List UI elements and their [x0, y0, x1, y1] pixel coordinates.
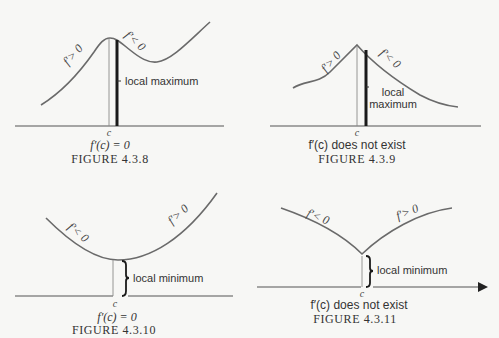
figure-4-3-8: local maximum f′> 0 f′< 0 c f′(c) = 0 FI…	[15, 22, 224, 166]
figure-4-3-11: local minimum f′< 0 f′> 0 c f′(c) does n…	[257, 201, 488, 326]
extremum-label: local minimum	[133, 272, 203, 284]
local-min-brace	[122, 261, 129, 296]
right-slope-label: f′> 0	[394, 201, 421, 223]
left-slope-label: f′< 0	[65, 220, 92, 246]
extremum-label-line1: local	[382, 86, 405, 98]
condition-label: f′(c) does not exist	[309, 138, 407, 152]
extremum-label-line2: maximum	[369, 98, 417, 110]
left-slope-label: f′> 0	[60, 42, 86, 69]
extremum-label: local maximum	[125, 75, 198, 87]
figure-caption: FIGURE 4.3.10	[72, 323, 156, 337]
condition-label: f′(c) = 0	[90, 138, 129, 152]
axis-arrow-icon	[478, 282, 488, 292]
condition-label: f′(c) does not exist	[311, 298, 409, 312]
point-c-label: c	[107, 127, 112, 138]
figure-4-3-9: local maximum f′> 0 f′< 0 c f′(c) does n…	[270, 45, 481, 166]
figure-caption: FIGURE 4.3.9	[318, 152, 396, 166]
extremum-label: local minimum	[377, 264, 447, 276]
point-c-label: c	[113, 298, 118, 309]
local-min-brace	[366, 256, 373, 287]
condition-label: f′(c) = 0	[97, 310, 136, 324]
right-slope-label: f′> 0	[165, 201, 192, 227]
figure-caption: FIGURE 4.3.8	[71, 152, 149, 166]
figure-caption: FIGURE 4.3.11	[313, 312, 397, 326]
left-slope-label: f′> 0	[318, 49, 344, 76]
right-slope-label: f′< 0	[122, 28, 149, 54]
point-c-label: c	[355, 127, 360, 138]
figure-4-3-10: local minimum f′< 0 f′> 0 c f′(c) = 0 FI…	[15, 193, 233, 337]
